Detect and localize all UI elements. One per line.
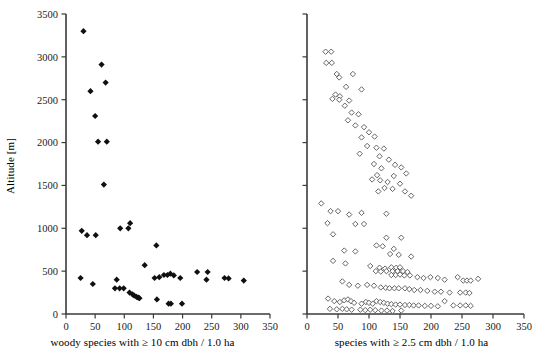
data-point: [384, 211, 389, 216]
data-point: [435, 304, 440, 309]
data-point: [361, 124, 366, 129]
data-point: [391, 246, 396, 251]
x-tick-label: 300: [485, 321, 501, 332]
data-point: [90, 281, 96, 287]
data-point: [396, 252, 401, 257]
data-point: [457, 290, 462, 295]
data-point: [408, 193, 413, 198]
data-point: [95, 139, 101, 145]
data-point: [319, 201, 324, 206]
data-point: [363, 307, 368, 312]
data-point: [103, 79, 109, 85]
data-point: [79, 228, 85, 234]
data-point: [114, 277, 120, 283]
data-point: [330, 96, 335, 101]
data-point: [328, 49, 333, 54]
data-point: [101, 181, 107, 187]
y-axis-title: Altitude [m]: [4, 116, 16, 216]
x-tick-label: 200: [423, 321, 439, 332]
data-point: [364, 282, 369, 287]
data-point: [332, 298, 337, 303]
x-tick-label: 250: [454, 321, 470, 332]
data-point: [359, 87, 364, 92]
x-tick-label: 350: [516, 321, 532, 332]
y-tick-label: 3500: [37, 9, 58, 20]
data-point: [386, 157, 391, 162]
data-point: [350, 71, 355, 76]
data-point: [330, 232, 335, 237]
y-tick-label: 0: [53, 309, 58, 320]
data-point: [343, 84, 348, 89]
scatter-plot-right: 050100150200250300350: [285, 0, 538, 359]
data-point: [151, 275, 157, 281]
data-point: [80, 28, 86, 34]
data-point: [77, 275, 83, 281]
data-point: [241, 277, 247, 283]
chart-panel-right: 050100150200250300350 species with ≥ 2.5…: [285, 0, 538, 359]
data-point: [399, 165, 404, 170]
x-tick-label: 250: [204, 321, 220, 332]
data-point: [125, 225, 131, 231]
data-point: [358, 307, 363, 312]
data-point: [402, 189, 407, 194]
data-point: [98, 61, 104, 67]
data-point: [117, 225, 123, 231]
x-tick-label: 200: [175, 321, 191, 332]
data-point: [442, 277, 447, 282]
data-point: [203, 277, 209, 283]
data-point: [342, 103, 347, 108]
x-axis-title-left: woody species with ≥ 10 cm dbh / 1.0 ha: [0, 336, 285, 348]
data-point: [340, 279, 345, 284]
data-point: [399, 235, 404, 240]
y-tick-label: 1000: [37, 223, 58, 234]
data-point: [412, 287, 417, 292]
data-point: [385, 179, 390, 184]
data-point: [349, 307, 354, 312]
data-point: [329, 60, 334, 65]
data-point: [84, 232, 90, 238]
data-point: [353, 221, 358, 226]
data-point: [432, 289, 437, 294]
data-point: [226, 275, 232, 281]
data-point: [468, 303, 473, 308]
data-point: [154, 296, 160, 302]
data-point: [463, 303, 468, 308]
data-point: [384, 308, 389, 313]
data-point: [353, 249, 358, 254]
data-point: [369, 177, 374, 182]
data-point: [328, 208, 333, 213]
data-point: [142, 262, 148, 268]
data-point: [428, 274, 433, 279]
figure-container: 0500100015002000250030003500050100150200…: [0, 0, 538, 359]
data-series: [319, 49, 481, 314]
chart-panel-left: 0500100015002000250030003500050100150200…: [0, 0, 285, 359]
data-point: [435, 275, 440, 280]
data-point: [353, 123, 358, 128]
data-point: [447, 290, 452, 295]
data-point: [355, 283, 360, 288]
data-point: [428, 303, 433, 308]
data-point: [327, 306, 332, 311]
scatter-plot-left: 0500100015002000250030003500050100150200…: [0, 0, 285, 359]
x-axis-title-right: species with ≥ 2.5 cm dbh / 1.0 ha: [285, 336, 538, 348]
x-tick-label: 100: [361, 321, 377, 332]
data-point: [391, 173, 396, 178]
data-point: [381, 146, 386, 151]
data-point: [374, 145, 379, 150]
data-point: [87, 88, 93, 94]
data-point: [397, 302, 402, 307]
data-point: [379, 166, 384, 171]
data-point: [397, 181, 402, 186]
data-point: [368, 263, 373, 268]
data-point: [392, 162, 397, 167]
data-point: [451, 303, 456, 308]
data-point: [177, 275, 183, 281]
data-point: [373, 268, 378, 273]
data-point: [357, 151, 362, 156]
data-point: [92, 113, 98, 119]
data-point: [390, 308, 395, 313]
x-tick-label: 150: [146, 321, 162, 332]
data-point: [387, 251, 392, 256]
data-point: [179, 301, 185, 307]
data-point: [377, 154, 382, 159]
